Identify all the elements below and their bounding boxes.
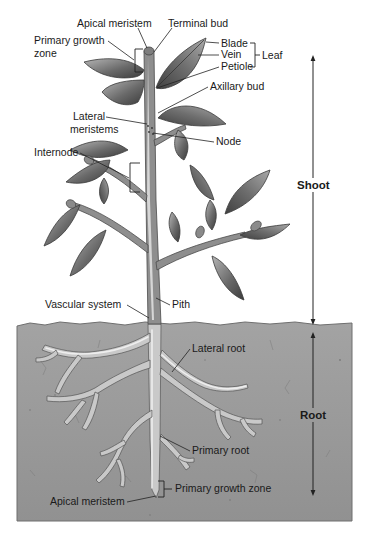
label-vascular-system: Vascular system (45, 298, 121, 310)
label-petiole: Petiole (221, 60, 253, 72)
label-primary-growth-zone-top: Primary growth (34, 34, 105, 46)
label-shoot: Shoot (297, 179, 330, 191)
label-internode: Internode (34, 146, 79, 158)
label-apical-meristem-top: Apical meristem (77, 17, 152, 29)
label-root: Root (300, 409, 326, 421)
label-terminal-bud: Terminal bud (168, 17, 228, 29)
label-lateral-root: Lateral root (192, 342, 245, 354)
label-primary-growth-zone-bottom: Primary growth zone (175, 482, 271, 494)
label-lateral-meristems: Lateral (73, 110, 105, 122)
label-node: Node (216, 135, 241, 147)
plant-anatomy-diagram: Apical meristem Terminal bud Primary gro… (0, 0, 370, 535)
label-primary-root: Primary root (192, 444, 249, 456)
label-lateral-meristems-line2: meristems (70, 123, 118, 135)
label-axillary-bud: Axillary bud (210, 80, 264, 92)
label-vein: Vein (221, 48, 242, 60)
label-leaf: Leaf (262, 49, 283, 61)
label-primary-growth-zone-top-line2: zone (34, 47, 57, 59)
label-pith: Pith (172, 298, 190, 310)
label-apical-meristem-bottom: Apical meristem (50, 495, 125, 507)
